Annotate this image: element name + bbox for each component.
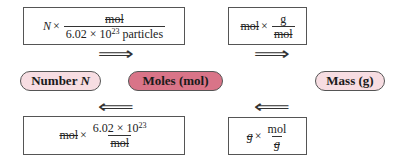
node-label: Mass (g)	[326, 73, 373, 89]
arrow-right-icon: ⟹	[98, 45, 134, 63]
exponent: 23	[139, 121, 147, 130]
unit: particles	[119, 27, 163, 41]
fraction: g mol	[272, 13, 295, 40]
lead-cancelled: mol	[240, 19, 259, 34]
fraction: 6.02 × 1023 mol	[91, 122, 149, 149]
variable-n: N	[43, 19, 51, 34]
numerator: 6.02 × 1023	[91, 122, 149, 135]
avogadro-coefficient: 6.02 × 10	[93, 121, 139, 135]
numerator-cancelled: mol	[103, 13, 126, 26]
fraction: mol g	[266, 123, 289, 150]
expression: mol × g mol	[240, 13, 294, 40]
denominator-cancelled: mol	[108, 135, 131, 149]
denominator: 6.02 × 1023 particles	[64, 26, 165, 40]
node-label: Moles (mol)	[142, 73, 208, 89]
times-sign: ×	[80, 128, 87, 143]
avogadro-coefficient: 6.02 × 10	[66, 27, 112, 41]
denominator-cancelled: g	[272, 136, 282, 150]
fraction: mol 6.02 × 1023 particles	[64, 13, 165, 40]
expression: mol × 6.02 × 1023 mol	[59, 122, 148, 149]
arrow-right-icon: ⟹	[254, 45, 290, 63]
conversion-moles-to-number: mol × 6.02 × 1023 mol	[23, 116, 185, 155]
lead-cancelled: mol	[59, 128, 78, 143]
node-number: Number N	[20, 71, 101, 91]
node-mass: Mass (g)	[315, 71, 385, 91]
node-moles: Moles (mol)	[128, 71, 223, 91]
times-sign: ×	[255, 129, 262, 144]
expression: g × mol g	[247, 123, 288, 150]
denominator-cancelled: mol	[272, 26, 295, 40]
times-sign: ×	[261, 19, 268, 34]
arrow-left-icon: ⟸	[254, 98, 290, 116]
arrow-left-icon: ⟸	[98, 98, 134, 116]
node-variable: N	[80, 73, 89, 89]
times-sign: ×	[53, 19, 60, 34]
numerator: g	[278, 13, 288, 26]
conversion-moles-to-mass: mol × g mol	[228, 7, 307, 45]
node-label: Number	[31, 73, 80, 89]
expression: N × mol 6.02 × 1023 particles	[43, 13, 165, 40]
conversion-number-to-moles: N × mol 6.02 × 1023 particles	[23, 7, 185, 45]
conversion-mass-to-moles: g × mol g	[228, 117, 307, 155]
numerator: mol	[266, 123, 289, 136]
lead-cancelled: g	[247, 129, 253, 144]
